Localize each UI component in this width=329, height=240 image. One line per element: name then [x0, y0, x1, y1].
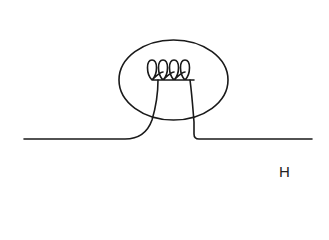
right-lead-wire [190, 80, 312, 139]
filament-coil [148, 60, 195, 80]
diagram-label: H [279, 164, 290, 179]
